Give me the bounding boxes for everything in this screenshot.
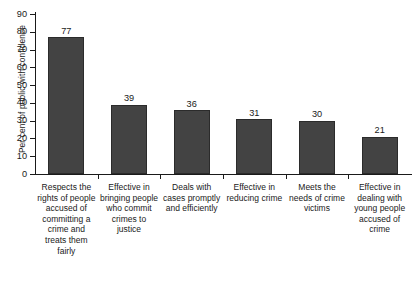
y-axis-tick-label: 70 bbox=[17, 45, 27, 54]
bar-value-label: 31 bbox=[249, 109, 259, 118]
x-axis-tick bbox=[98, 175, 99, 179]
bar: 21 bbox=[362, 137, 398, 174]
y-axis-tick-label: 10 bbox=[17, 152, 27, 161]
bar-value-label: 21 bbox=[375, 126, 385, 135]
bar-value-label: 39 bbox=[124, 94, 134, 103]
y-axis-tick: 0 bbox=[30, 174, 35, 175]
bar: 77 bbox=[48, 37, 84, 174]
bar-value-label: 36 bbox=[187, 100, 197, 109]
y-axis-tick-label: 50 bbox=[17, 81, 27, 90]
x-axis-category-label: Effective in dealing with young people a… bbox=[349, 182, 410, 235]
x-axis-tick bbox=[160, 175, 161, 179]
x-axis-category-label: Effective in reducing crime bbox=[224, 182, 285, 203]
plot-area: 773936313021 bbox=[35, 14, 411, 174]
y-axis-tick-label: 90 bbox=[17, 10, 27, 19]
bar: 31 bbox=[236, 119, 272, 174]
y-axis-tick-label: 40 bbox=[17, 99, 27, 108]
x-axis-category-label: Deals with cases promptly and efficientl… bbox=[161, 182, 222, 214]
bar-chart-figure: Per cent of public with confidence 01020… bbox=[0, 0, 418, 291]
y-axis-tick-label: 80 bbox=[17, 28, 27, 37]
x-axis-category-label: Meets the needs of crime victims bbox=[287, 182, 348, 214]
x-axis-tick bbox=[286, 175, 287, 179]
bar: 36 bbox=[174, 110, 210, 174]
x-axis-category-label: Respects the rights of people accused of… bbox=[36, 182, 97, 256]
bar: 30 bbox=[299, 121, 335, 174]
y-axis-tick-label: 60 bbox=[17, 63, 27, 72]
x-axis-tick bbox=[348, 175, 349, 179]
y-axis-tick-label: 0 bbox=[22, 170, 27, 179]
x-axis-tick bbox=[223, 175, 224, 179]
y-axis-tick-label: 30 bbox=[17, 117, 27, 126]
y-axis-tick-label: 20 bbox=[17, 134, 27, 143]
bar-value-label: 30 bbox=[312, 110, 322, 119]
bar: 39 bbox=[111, 105, 147, 174]
bar-value-label: 77 bbox=[61, 27, 71, 36]
x-axis-category-label: Effective in bringing people who commit … bbox=[99, 182, 160, 235]
